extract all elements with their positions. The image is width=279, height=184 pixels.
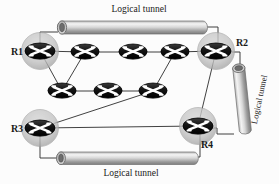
router-label-r3: R3 [11,123,23,134]
router-label-r4: R4 [201,139,213,150]
tunnel-top-body [58,21,208,34]
router-node-r2[interactable] [201,43,231,60]
tunnel-top [57,21,207,34]
router-node-c[interactable] [161,44,189,60]
router-label-r1: R1 [11,46,23,57]
network-diagram-canvas: Logical tunnel Logical tunnel Logical tu… [0,0,279,184]
router-label-r2: R2 [236,37,248,48]
tunnel-bottom-bore [59,154,64,162]
router-node-e[interactable] [94,83,122,99]
router-node-r4[interactable] [183,118,213,135]
router-node-r3[interactable] [25,120,55,137]
router-node-a[interactable] [71,44,99,60]
tunnel-bottom [57,152,199,165]
tunnel-top-label: Logical tunnel [111,4,166,14]
router-node-b[interactable] [119,44,147,60]
tunnel-top-bore [60,23,65,31]
tunnel-bottom-body [57,152,199,165]
router-node-d[interactable] [48,83,76,99]
router-node-f[interactable] [139,83,167,99]
router-node-r1[interactable] [25,43,55,60]
tunnel-bottom-label: Logical tunnel [103,168,158,178]
